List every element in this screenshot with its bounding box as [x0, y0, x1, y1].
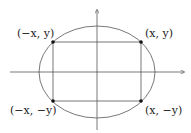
point-bottom-left [51, 99, 55, 103]
label-top-left: (−x, y) [17, 27, 54, 40]
label-bottom-right: (x, −y) [145, 104, 182, 117]
point-top-left [51, 40, 55, 44]
point-bottom-right [139, 99, 143, 103]
label-bottom-left: (−x, −y) [10, 104, 56, 117]
point-top-right [139, 40, 143, 44]
label-top-right: (x, y) [145, 27, 173, 40]
ellipse-diagram: (−x, y) (x, y) (−x, −y) (x, −y) [0, 0, 191, 133]
